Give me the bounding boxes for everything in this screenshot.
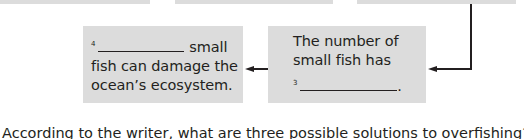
box-line-3: ocean’s ecosystem. xyxy=(91,76,238,95)
blank-answer-field-3[interactable] xyxy=(300,78,397,91)
flowchart-box-small-fish-damage: 4small fish can damage the ocean’s ecosy… xyxy=(83,26,243,103)
box-line-1-suffix: small xyxy=(189,39,227,55)
box-line-1: The number of xyxy=(293,32,402,51)
box-line-2: small fish has xyxy=(293,51,402,70)
arrowhead-left-icon xyxy=(245,66,254,72)
gap-suffix: . xyxy=(397,78,402,94)
connector-vertical-line xyxy=(470,4,472,69)
blank-answer-field-4[interactable] xyxy=(98,39,184,52)
arrowhead-left-icon xyxy=(428,66,437,72)
connector-horizontal-line xyxy=(432,68,472,70)
flowchart-box-top-right xyxy=(357,0,516,4)
flowchart-box-top-left xyxy=(0,0,150,4)
gap-fill-3: 3. xyxy=(293,74,402,96)
flowchart-box-top-middle xyxy=(175,0,333,4)
gap-number: 3 xyxy=(293,79,297,87)
box-line-2: fish can damage the xyxy=(91,57,238,76)
flowchart-box-number-of-small-fish: The number of small fish has 3. xyxy=(268,26,426,103)
gap-number: 4 xyxy=(91,40,95,48)
gap-fill-4: 4small xyxy=(91,35,238,57)
question-text: According to the writer, what are three … xyxy=(2,124,524,139)
